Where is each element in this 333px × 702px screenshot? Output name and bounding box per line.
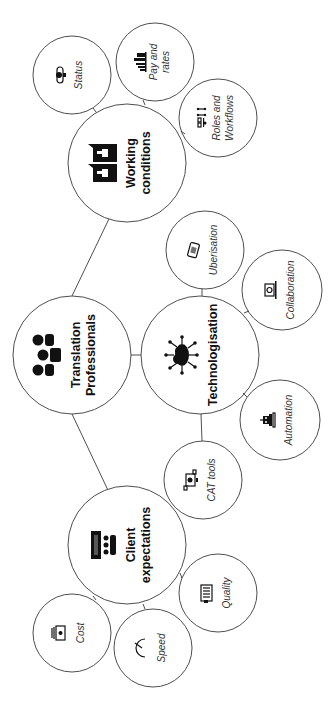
mind-map-diagram: Status Pay and rates [0, 0, 333, 702]
node-working-conditions: Working conditions [68, 104, 186, 222]
center-label-line2: Professionals [84, 314, 98, 396]
node-speed: Speed [114, 609, 192, 687]
pay-and-rates-label-line1: Pay and [148, 43, 159, 80]
client-expectations-label-line2: expectations [139, 507, 153, 583]
node-automation: Automation [240, 380, 320, 460]
client-expectations-label-line1: Client [124, 527, 138, 563]
status-label: Status [73, 61, 84, 89]
node-pay-and-rates: Pay and rates [116, 23, 194, 101]
quality-label: Quality [221, 576, 232, 608]
node-roles-and-workflows: Roles and Workflows [179, 79, 257, 157]
cost-label: Cost [75, 621, 86, 643]
collaboration-label: Collaboration [285, 260, 296, 319]
pay-and-rates-label-line2: rates [160, 51, 171, 73]
node-quality: Quality [179, 554, 257, 632]
center-label-line1: Translation [69, 322, 83, 389]
node-cat-tools: CAT tools [164, 441, 242, 519]
automation-label: Automation [283, 394, 294, 446]
cat-tools-label: CAT tools [206, 458, 217, 501]
node-translation-professionals: Translation Professionals [13, 296, 131, 414]
working-conditions-label-line2: conditions [139, 131, 153, 194]
technologisation-label: Technologisation [206, 304, 220, 407]
node-client-expectations: Client expectations [68, 486, 186, 604]
uberisation-label: Uberisation [208, 224, 219, 275]
speed-label: Speed [156, 633, 167, 662]
roles-label-line2: Workflows [224, 95, 235, 141]
working-conditions-label-line1: Working [124, 138, 138, 188]
node-uberisation: Uberisation [166, 211, 244, 289]
node-status: Status [33, 36, 111, 114]
roles-label-line1: Roles and [211, 95, 222, 140]
node-technologisation: Technologisation [141, 296, 259, 414]
node-cost: Cost [33, 594, 111, 672]
node-collaboration: Collaboration [242, 250, 322, 330]
